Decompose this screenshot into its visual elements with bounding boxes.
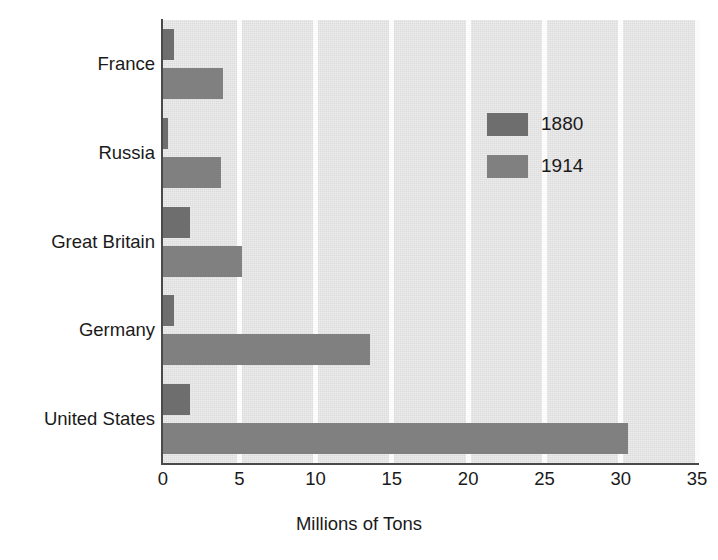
x-axis-title: Millions of Tons — [0, 513, 718, 535]
bar-france-1880 — [163, 29, 174, 60]
x-tick-label-10: 10 — [294, 470, 338, 489]
legend-swatch-1914 — [487, 155, 528, 178]
x-tick-label-25: 25 — [522, 470, 566, 489]
gridline-30 — [618, 20, 623, 463]
gridline-20 — [466, 20, 471, 463]
bar-russia-1914 — [163, 157, 221, 188]
gridline-35 — [695, 20, 700, 463]
bar-russia-1880 — [163, 118, 168, 149]
x-tick-label-15: 15 — [370, 470, 414, 489]
x-axis-line — [161, 463, 699, 465]
plot-background-texture — [163, 20, 697, 463]
gridline-15 — [389, 20, 394, 463]
bar-united-states-1880 — [163, 384, 190, 415]
gridline-25 — [542, 20, 547, 463]
x-tick-label-5: 5 — [217, 470, 261, 489]
x-tick-label-20: 20 — [446, 470, 490, 489]
bar-united-states-1914 — [163, 423, 628, 454]
x-tick-label-0: 0 — [141, 470, 185, 489]
category-label-russia: Russia — [0, 144, 155, 163]
legend-label-1914: 1914 — [541, 152, 583, 180]
bar-france-1914 — [163, 68, 223, 99]
category-label-france: France — [0, 55, 155, 74]
bar-great-britain-1914 — [163, 246, 242, 277]
gridline-5 — [237, 20, 242, 463]
category-label-germany: Germany — [0, 321, 155, 340]
bar-germany-1880 — [163, 295, 174, 326]
category-label-great-britain: Great Britain — [0, 233, 155, 252]
gridline-10 — [313, 20, 318, 463]
x-tick-label-35: 35 — [675, 470, 718, 489]
bar-chart: FranceRussiaGreat BritainGermanyUnited S… — [0, 0, 718, 560]
category-label-united-states: United States — [0, 410, 155, 429]
x-tick-label-30: 30 — [599, 470, 643, 489]
legend-label-1880: 1880 — [541, 110, 583, 138]
legend-swatch-1880 — [487, 113, 528, 136]
y-axis-line — [161, 19, 163, 465]
bar-germany-1914 — [163, 334, 370, 365]
plot-area — [163, 20, 697, 463]
bar-great-britain-1880 — [163, 207, 190, 238]
